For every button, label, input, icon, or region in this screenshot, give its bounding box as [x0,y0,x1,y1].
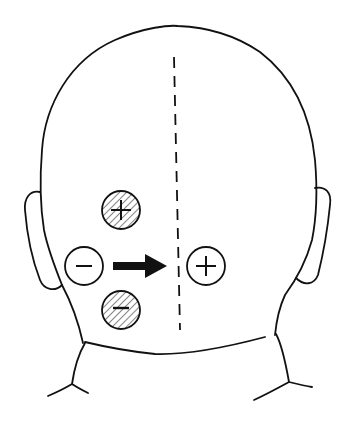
arrow-right-icon [113,254,167,278]
head-diagram [0,0,349,425]
diagram-canvas [0,0,349,425]
left-ear [25,192,62,289]
marker-left-open-minus [65,247,103,285]
midline-dashed [174,57,180,330]
marker-right-open-plus [187,247,225,285]
neck-line [85,337,265,354]
marker-lower-hatched-minus [102,291,140,329]
right-shoulder [254,334,312,400]
left-shoulder [48,343,88,396]
marker-upper-hatched-plus [102,191,140,229]
